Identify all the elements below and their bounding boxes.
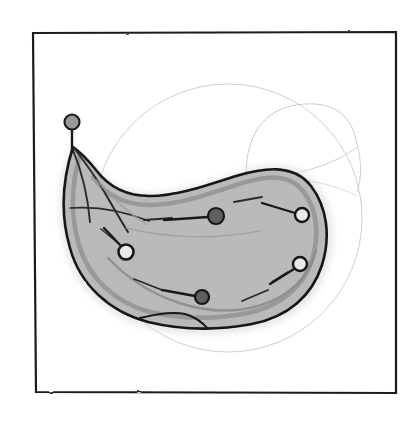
pin-1-marker[interactable] bbox=[65, 115, 80, 130]
pin-2-marker[interactable] bbox=[208, 208, 224, 224]
pin-4-marker[interactable] bbox=[293, 257, 307, 271]
pin-5-marker[interactable] bbox=[195, 290, 209, 304]
pin-6-marker[interactable] bbox=[119, 245, 134, 260]
sketch-canvas: Hand-drawn anatomical organ sketch stoma… bbox=[0, 0, 416, 421]
sketch-figure bbox=[0, 0, 416, 421]
pin-3-marker[interactable] bbox=[295, 208, 309, 222]
